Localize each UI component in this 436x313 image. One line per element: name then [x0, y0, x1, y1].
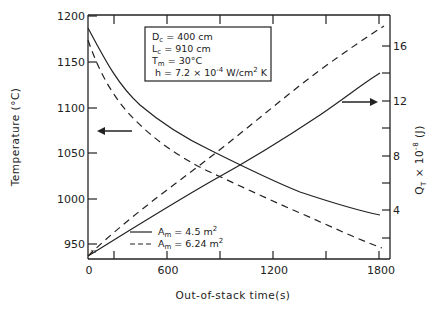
y-right-tick-4: 4 [393, 204, 400, 217]
legend-solid-label: Am = 4.5 m2 [158, 225, 217, 239]
x-tick-label-0: 0 [86, 264, 93, 277]
parameter-info-box: Dc = 400 cm Lc = 910 cm Tm = 30°C h = 7.… [145, 27, 271, 81]
y-left-tick-1200: 1200 [57, 10, 85, 23]
y-right-tick-8: 8 [393, 150, 400, 163]
chart: 0 600 1200 1800 1200 1150 1100 1050 1000… [0, 0, 436, 313]
x-tick-label-1800: 1800 [367, 264, 395, 277]
legend: Am = 4.5 m2 Am = 6.24 m2 [130, 225, 223, 251]
info-h: h = 7.2 × 10-4 W/cm2 K [155, 66, 268, 78]
heat-curve-4.5 [88, 73, 380, 256]
y-left-tick-1150: 1150 [57, 56, 85, 69]
right-axis-arrow [342, 98, 378, 106]
legend-dashed-label: Am = 6.24 m2 [158, 237, 223, 251]
y-right-ticks [382, 46, 390, 238]
y-right-tick-12: 12 [393, 95, 407, 108]
y-right-tick-16: 16 [393, 40, 407, 53]
y-left-tick-950: 950 [64, 238, 85, 251]
x-axis-title: Out-of-stack time(s) [176, 289, 291, 301]
y-left-tick-1050: 1050 [57, 147, 85, 160]
x-tick-label-1200: 1200 [260, 264, 288, 277]
y-right-axis-title: QT × 10-8 (J) [412, 125, 428, 195]
x-tick-label-600: 600 [158, 264, 179, 277]
y-left-tick-1000: 1000 [57, 193, 85, 206]
y-left-tick-1100: 1100 [57, 102, 85, 115]
y-left-ticks [88, 16, 97, 244]
y-left-axis-title: Temperature (°C) [9, 88, 21, 188]
left-axis-arrow [97, 127, 132, 135]
